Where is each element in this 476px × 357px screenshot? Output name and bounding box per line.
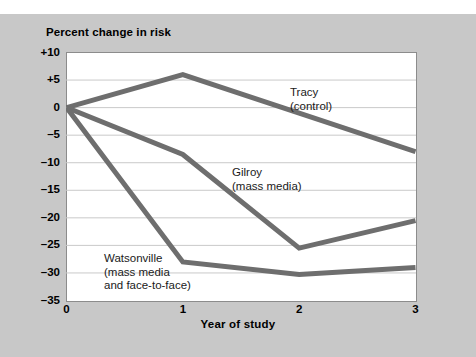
series-label-gilroy: Gilroy (mass media)	[232, 166, 302, 193]
series-label-tracy-line1: Tracy	[290, 86, 332, 100]
series-line-0	[67, 75, 416, 152]
series-label-gilroy-line2: (mass media)	[232, 180, 302, 194]
y-tick-label: –25	[20, 238, 60, 250]
x-tick-label: 0	[52, 303, 82, 315]
x-tick-label: 1	[168, 303, 198, 315]
figure-container: Percent change in risk +10+50–5–10–15–20…	[0, 0, 476, 357]
y-tick-label: –30	[20, 266, 60, 278]
y-tick-label: –20	[20, 211, 60, 223]
y-tick-label: –10	[20, 156, 60, 168]
series-label-watsonville: Watsonville (mass media and face-to-face…	[104, 252, 191, 293]
y-tick-label: –5	[20, 128, 60, 140]
x-tick-label: 2	[284, 303, 314, 315]
y-tick-label: –15	[20, 183, 60, 195]
y-tick-label: +5	[20, 73, 60, 85]
series-label-watsonville-line3: and face-to-face)	[104, 279, 191, 293]
series-label-watsonville-line2: (mass media	[104, 266, 191, 280]
chart-title: Percent change in risk	[46, 26, 171, 38]
series-label-tracy-line2: (control)	[290, 100, 332, 114]
y-tick-label: 0	[20, 101, 60, 113]
y-tick-label: +10	[20, 46, 60, 58]
x-tick-label: 3	[401, 303, 431, 315]
series-label-gilroy-line1: Gilroy	[232, 166, 302, 180]
series-label-watsonville-line1: Watsonville	[104, 252, 191, 266]
series-label-tracy: Tracy (control)	[290, 86, 332, 113]
x-axis-title: Year of study	[0, 318, 476, 330]
